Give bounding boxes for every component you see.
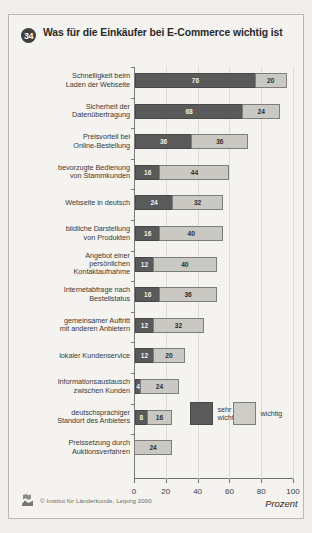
bar-row: 6824	[135, 104, 280, 119]
bar-row: 7620	[135, 73, 287, 88]
x-axis-tick	[134, 479, 135, 483]
category-label: Sicherheit derDatenübertragung	[21, 103, 130, 120]
bar-segment-wichtig: 24	[242, 104, 280, 119]
category-label: bildliche Darstellungvon Produkten	[21, 225, 130, 242]
category-label: deutschsprachigerStandort des Anbieters	[21, 409, 130, 426]
y-axis-tick	[131, 220, 135, 221]
bar-row: 1640	[135, 226, 223, 241]
y-axis-tick	[131, 189, 135, 190]
x-axis-tick	[166, 479, 167, 483]
category-label: Internetabfrage nachBestellstatus	[21, 286, 130, 303]
category-label: gemeinsamer Auftrittmit anderen Anbieter…	[21, 317, 130, 334]
figure-number-badge: 34	[21, 28, 36, 43]
bar-segment-sehr-wichtig: 12	[135, 257, 154, 272]
bar-segment-wichtig: 20	[153, 348, 185, 363]
bar-segment-sehr-wichtig: 16	[135, 226, 160, 241]
x-axis-tick	[261, 479, 262, 483]
bar-segment-wichtig: 40	[153, 257, 217, 272]
bar-row: 1232	[135, 318, 204, 333]
x-axis-tick-label: 20	[161, 487, 170, 496]
y-axis-tick	[131, 373, 135, 374]
y-axis-tick	[131, 312, 135, 313]
bar-row: 1644	[135, 165, 229, 180]
y-axis-tick	[131, 281, 135, 282]
category-label: Schnelligkeit beimLaden der Webseite	[21, 72, 130, 89]
bar-row: 816	[135, 410, 172, 425]
bar-segment-sehr-wichtig: 16	[135, 165, 160, 180]
bar-row: 1220	[135, 348, 185, 363]
x-axis-tick	[198, 479, 199, 483]
x-axis-tick-label: 40	[193, 487, 202, 496]
chart-plot-area: Schnelligkeit beimLaden der WebseiteSich…	[21, 67, 293, 479]
legend-label-wichtig: wichtig	[260, 410, 282, 418]
y-axis-tick	[131, 342, 135, 343]
bar-segment-sehr-wichtig: 12	[135, 318, 154, 333]
y-axis-tick	[131, 128, 135, 129]
legend-swatch-wichtig	[233, 402, 256, 425]
y-axis-tick	[131, 67, 135, 68]
category-label-column: Schnelligkeit beimLaden der WebseiteSich…	[21, 67, 130, 479]
bar-segment-wichtig: 40	[159, 226, 223, 241]
figure-panel: 34 Was für die Einkäufer bei E-Commerce …	[8, 14, 304, 519]
x-axis-tick	[229, 479, 230, 483]
copyright-text: © Institut für Länderkunde, Leipzig 2000	[40, 497, 152, 504]
category-label: Informationsaustauschzwischen Kunden	[21, 378, 130, 395]
bar-row: 1240	[135, 257, 217, 272]
x-axis-line	[134, 478, 293, 479]
bar-row: 24	[135, 440, 172, 455]
gridline	[293, 67, 294, 479]
y-axis-tick	[131, 251, 135, 252]
x-axis-tick-label: 60	[225, 487, 234, 496]
y-axis-tick	[131, 404, 135, 405]
bar-segment-wichtig: 32	[172, 195, 223, 210]
category-label: lokaler Kundenservice	[21, 352, 130, 360]
bar-segment-sehr-wichtig: 36	[135, 134, 192, 149]
bar-segment-wichtig: 20	[255, 73, 287, 88]
y-axis-tick	[131, 434, 135, 435]
figure-title: Was für die Einkäufer bei E-Commerce wic…	[43, 27, 283, 39]
bar-segment-sehr-wichtig: 24	[135, 195, 173, 210]
category-label: Webseite in deutsch	[21, 199, 130, 207]
bar-segment-wichtig: 24	[134, 440, 172, 455]
bar-segment-wichtig: 32	[153, 318, 204, 333]
x-axis-tick	[293, 479, 294, 483]
figure-header: 34 Was für die Einkäufer bei E-Commerce …	[21, 27, 293, 43]
category-label: bevorzugte Bedienungvon Stammkunden	[21, 164, 130, 181]
bar-segment-wichtig: 44	[159, 165, 229, 180]
bar-segment-sehr-wichtig: 76	[135, 73, 256, 88]
bar-segment-sehr-wichtig: 68	[135, 104, 243, 119]
category-label: Preisvorteil beiOnline-Bestellung	[21, 133, 130, 150]
bar-segment-wichtig: 24	[140, 379, 178, 394]
bar-segment-sehr-wichtig: 16	[135, 287, 160, 302]
bar-row: 2432	[135, 195, 223, 210]
legend-swatch-sehr-wichtig	[190, 402, 213, 425]
x-axis-tick-label: 100	[286, 487, 299, 496]
bar-row: 1636	[135, 287, 217, 302]
bar-row: 3636	[135, 134, 248, 149]
x-axis-tick-label: 80	[257, 487, 266, 496]
category-label: Preissetzung durchAuktionsverfahren	[21, 439, 130, 456]
y-axis-tick	[131, 159, 135, 160]
y-axis-tick	[131, 98, 135, 99]
chart-axes: 020406080100Prozent762068243636164424321…	[134, 67, 293, 479]
institut-fuer-laenderkunde-logo-icon	[22, 494, 35, 507]
bar-segment-wichtig: 36	[159, 287, 216, 302]
bar-row: 424	[135, 379, 179, 394]
bar-segment-wichtig: 36	[191, 134, 248, 149]
x-axis-title: Prozent	[265, 498, 297, 509]
category-label: Angebot einerpersönlichenKontaktaufnahme	[21, 252, 130, 277]
figure-footer: © Institut für Länderkunde, Leipzig 2000	[22, 494, 152, 507]
bar-segment-wichtig: 16	[147, 410, 172, 425]
bar-segment-sehr-wichtig: 12	[135, 348, 154, 363]
